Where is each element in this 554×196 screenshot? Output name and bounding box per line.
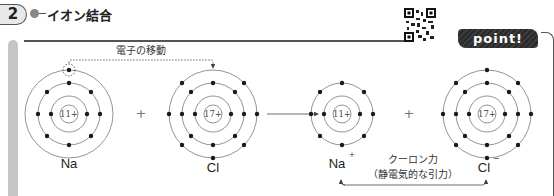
cl-ion-charge: −	[493, 154, 500, 163]
cl-ion-label: Cl	[478, 160, 490, 175]
coulomb-force-arrow	[341, 180, 486, 185]
coulomb-force-sublabel: （静電気的な引力）	[368, 168, 458, 180]
cl-ion-nucleus: 17+	[478, 109, 496, 119]
na-label: Na	[61, 156, 78, 171]
na-nucleus: 11+	[60, 109, 78, 119]
na-ion-charge: +	[349, 151, 355, 159]
ionic-bond-diagram: 11+ Na + 17+ Cl 電子の移動 11+ Na	[0, 0, 554, 196]
plus-sign-1: +	[136, 106, 147, 121]
na-ion-nucleus: 11+	[333, 109, 351, 119]
electron-transfer-arrow	[69, 60, 213, 68]
na-electrons	[36, 68, 102, 147]
cl-label: Cl	[207, 160, 219, 175]
plus-sign-2: +	[404, 106, 415, 121]
coulomb-force-label: クーロン力	[388, 153, 438, 165]
cl-nucleus: 17+	[204, 109, 222, 119]
na-ion-label: Na	[329, 156, 346, 171]
electron-transfer-label: 電子の移動	[116, 44, 166, 56]
